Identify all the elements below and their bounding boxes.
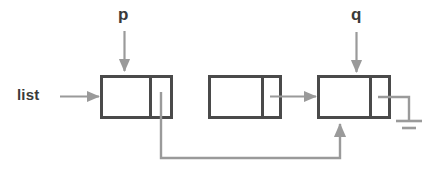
pointer-label-p: p xyxy=(118,6,129,23)
head-label-list: list xyxy=(17,87,39,102)
linked-list-diagram: p q list xyxy=(0,0,437,175)
node-2 xyxy=(210,77,281,118)
node-2-box xyxy=(210,77,281,118)
pointer-label-q: q xyxy=(351,6,362,23)
diagram-canvas xyxy=(0,0,437,175)
